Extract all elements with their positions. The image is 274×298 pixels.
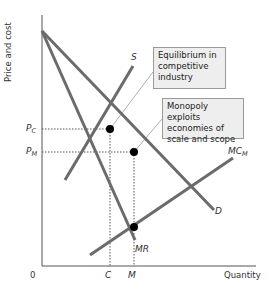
marginal-revenue-curve — [42, 31, 135, 240]
pc-label-sub: C — [31, 127, 36, 135]
pm-label-sub: M — [31, 150, 37, 158]
supply-label: S — [131, 52, 137, 62]
mc-label: MCM — [228, 146, 248, 158]
pc-label: PC — [26, 123, 36, 135]
callout-competitive-equilibrium: Equilibrium in competitive industry — [153, 47, 226, 89]
competitive-equilibrium-point — [106, 125, 114, 133]
y-axis-title: Price and cost — [3, 22, 13, 82]
monopoly-point — [130, 148, 138, 156]
mc-label-sub: M — [242, 150, 248, 158]
callout-monopoly-economies: Monopoly exploits economies of scale and… — [162, 98, 244, 139]
x-axis-title: Quantity — [224, 270, 261, 280]
origin-label: 0 — [30, 270, 35, 280]
demand-label: D — [215, 206, 222, 216]
mr-mc-intersection-point — [130, 223, 138, 231]
callout-leader-competitive — [110, 72, 153, 129]
callout-leader-monopoly — [134, 119, 162, 152]
mc-label-main: MC — [228, 146, 242, 156]
m-label: M — [128, 270, 136, 280]
supply-curve — [65, 66, 133, 180]
pm-label: PM — [26, 146, 37, 158]
c-label: C — [105, 270, 111, 280]
mr-label: MR — [135, 244, 149, 254]
